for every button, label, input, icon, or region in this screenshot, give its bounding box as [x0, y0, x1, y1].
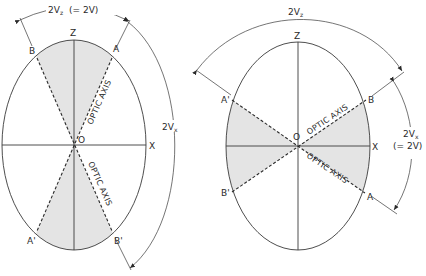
left-point-b-prime: B' — [114, 236, 123, 246]
left-lower-shaded-sector — [20, 145, 130, 276]
left-point-b: B — [29, 46, 35, 56]
left-top-angle-label: 2Vz(= 2V) — [48, 5, 98, 16]
left-x-label: X — [149, 141, 155, 151]
right-z-label: Z — [294, 31, 300, 41]
right-indicatrix: 2Vz 2Vx (= 2V) Z X O A' B B' A OPTIC AXI… — [196, 6, 426, 250]
left-point-a-prime: A' — [27, 236, 36, 246]
right-origin-label: O — [293, 132, 300, 142]
right-extension-b — [372, 72, 404, 96]
right-x-label: X — [372, 142, 378, 152]
left-point-a: A — [113, 44, 120, 54]
left-upper-shaded-sector — [20, 0, 130, 145]
left-extension-b — [20, 18, 32, 46]
right-top-angle-arc — [197, 19, 402, 71]
left-z-label: Z — [70, 28, 76, 38]
right-point-b-prime: B' — [221, 188, 230, 198]
right-extension-aprime — [196, 70, 231, 95]
right-point-a: A — [367, 192, 374, 202]
left-indicatrix: 2Vz(= 2V) 2Vx Z X O B A A' B' OPTIC AXIS… — [2, 0, 182, 276]
right-point-b: B — [368, 95, 374, 105]
right-point-a-prime: A' — [221, 95, 230, 105]
right-extension-a — [371, 196, 397, 214]
indicatrix-diagram: 2Vz(= 2V) 2Vx Z X O B A A' B' OPTIC AXIS… — [0, 0, 426, 276]
left-origin-label: O — [78, 135, 85, 145]
right-side-angle-equiv: (= 2V) — [393, 141, 422, 151]
